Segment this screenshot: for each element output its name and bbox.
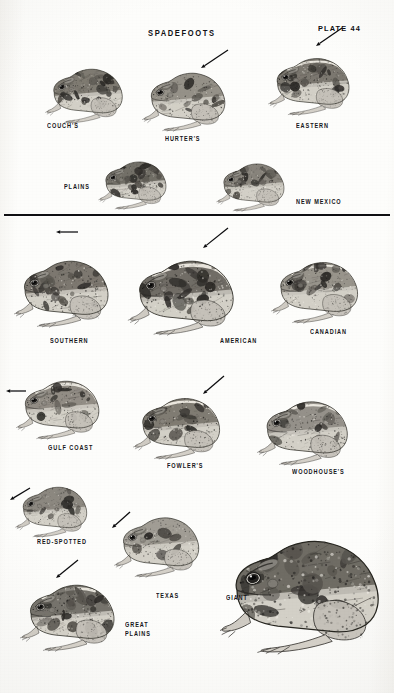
- species-label: PLAINS: [64, 182, 90, 191]
- plate-number: PLATE 44: [318, 24, 361, 33]
- species-illustration-greatplains: [12, 552, 130, 652]
- species-illustration-fowlers: [122, 368, 238, 460]
- species-illustration-hurters: [135, 44, 239, 132]
- species-illustration-plains: [92, 138, 178, 210]
- species-label: WOODHOUSE'S: [292, 467, 345, 476]
- species-label: EASTERN: [296, 121, 329, 130]
- species-illustration-american: [124, 224, 246, 336]
- species-illustration-woodhouses: [245, 370, 367, 466]
- species-illustration-giant: [220, 480, 390, 660]
- species-illustration-gulf-coast: [3, 352, 119, 440]
- species-label: TEXAS: [156, 591, 179, 600]
- species-label: FOWLER'S: [167, 461, 203, 470]
- species-label: NEW MEXICO: [296, 197, 342, 206]
- species-label: GULF COAST: [48, 443, 93, 452]
- species-illustration-red-spotted: [6, 462, 102, 538]
- species-label: GIANT: [226, 593, 248, 602]
- species-label: RED-SPOTTED: [37, 537, 87, 546]
- species-illustration-new-mexico: [208, 140, 298, 212]
- species-label: GREAT PLAINS: [125, 620, 151, 638]
- species-label: COUCH'S: [47, 121, 79, 130]
- section-divider: [4, 214, 390, 216]
- species-illustration-couchs: [38, 42, 136, 124]
- species-label: CANADIAN: [310, 327, 347, 336]
- species-illustration-canadian: [262, 232, 374, 324]
- species-label: AMERICAN: [220, 336, 257, 345]
- species-label: SOUTHERN: [50, 336, 88, 345]
- field-guide-plate: COUCH'SHURTER'SEASTERNPLAINSNEW MEXICOSO…: [0, 0, 394, 693]
- species-illustration-southern: [5, 228, 125, 328]
- plate-title: SPADEFOOTS: [148, 28, 216, 38]
- species-label: HURTER'S: [165, 134, 201, 143]
- species-illustration-eastern: [262, 30, 362, 116]
